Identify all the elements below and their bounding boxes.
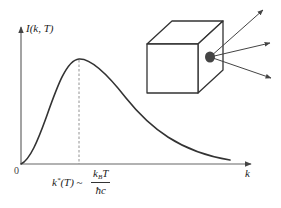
y-axis-label: I(k, T) [26, 23, 54, 34]
peak-fraction: kBT ħc [91, 168, 110, 196]
cavity-hole [205, 52, 215, 63]
peak-arg: (T) [60, 176, 73, 188]
fraction-denominator: ħc [95, 183, 105, 196]
numerator-T: T [102, 167, 108, 179]
fraction-numerator: kBT [91, 168, 110, 182]
cube-front-face [147, 44, 198, 93]
peak-relation: ~ [77, 176, 83, 188]
peak-formula-lhs: k*(T) ~ [52, 177, 83, 188]
x-axis-label: k [245, 168, 250, 179]
origin-label: 0 [14, 166, 19, 176]
